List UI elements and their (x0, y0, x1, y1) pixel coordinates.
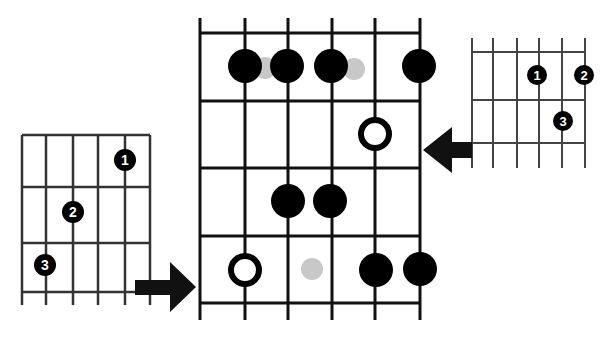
note-dot (270, 49, 304, 83)
finger-3-label: 3 (41, 257, 49, 273)
note-dot (228, 49, 262, 83)
root-note-open (361, 120, 389, 148)
ghost-note (301, 258, 323, 280)
note-dot (271, 184, 305, 218)
root-note-open (231, 256, 259, 284)
finger-1-label: 1 (121, 152, 129, 168)
note-dot (402, 49, 436, 83)
arrow-right-icon (135, 262, 196, 312)
arrow-left-icon (423, 127, 472, 173)
note-dot (313, 184, 347, 218)
left-fingers: 1 2 3 (34, 149, 136, 276)
right-fretboard (472, 38, 585, 168)
finger-2-label: 2 (69, 204, 77, 220)
finger-3-label: 3 (559, 114, 566, 129)
note-dot (359, 253, 393, 287)
note-dot (403, 252, 437, 286)
right-fingers: 1 2 3 (527, 65, 594, 131)
finger-2-label: 2 (580, 68, 587, 83)
note-dot (314, 49, 348, 83)
fretboard-diagram: 1 2 3 1 2 3 (0, 0, 612, 338)
finger-1-label: 1 (533, 68, 540, 83)
